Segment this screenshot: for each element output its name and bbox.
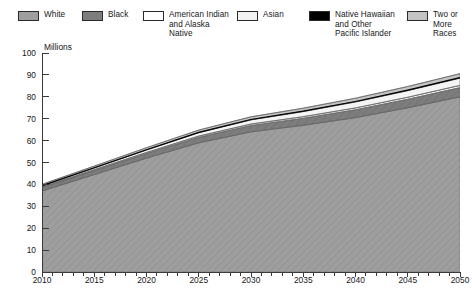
- legend-label-3: Asian: [263, 10, 284, 20]
- y-tick-label-70: 70: [10, 114, 36, 124]
- legend-item-1: Black: [82, 10, 128, 21]
- y-axis-title: Millions: [44, 42, 72, 52]
- x-tick-label-2035: 2035: [294, 275, 313, 285]
- legend-label-4: Native Hawaiian and Other Pacific Island…: [335, 10, 395, 39]
- legend-item-2: American Indian and Alaska Native: [143, 10, 229, 39]
- plot-svg: [42, 53, 460, 272]
- legend-label-0: White: [44, 10, 65, 20]
- legend-item-3: Asian: [237, 10, 284, 21]
- y-tick-label-10: 10: [10, 245, 36, 255]
- legend-label-5: Two or More Races: [433, 10, 458, 39]
- stacked-area-chart: WhiteBlackAmerican Indian and Alaska Nat…: [0, 0, 472, 292]
- x-tick-label-2050: 2050: [451, 275, 470, 285]
- y-tick-label-90: 90: [10, 70, 36, 80]
- legend-item-4: Native Hawaiian and Other Pacific Island…: [309, 10, 395, 39]
- legend-label-2: American Indian and Alaska Native: [169, 10, 229, 39]
- legend-swatch-native-hawaiian-pacific-islander: [309, 11, 330, 21]
- plot-area: [42, 53, 460, 272]
- y-tick-label-80: 80: [10, 92, 36, 102]
- legend-item-5: Two or More Races: [407, 10, 458, 39]
- x-tick-label-2015: 2015: [85, 275, 104, 285]
- stacked-bands: [42, 74, 460, 272]
- legend-swatch-two-or-more-races: [407, 11, 428, 21]
- legend-swatch-white: [18, 11, 39, 21]
- x-tick-label-2045: 2045: [398, 275, 417, 285]
- y-tick-label-0: 0: [10, 267, 36, 277]
- y-tick-label-40: 40: [10, 180, 36, 190]
- legend-swatch-black: [82, 11, 103, 21]
- x-tick-label-2025: 2025: [189, 275, 208, 285]
- chart-legend: WhiteBlackAmerican Indian and Alaska Nat…: [0, 0, 472, 46]
- x-tick-label-2030: 2030: [242, 275, 261, 285]
- legend-swatch-asian: [237, 11, 258, 21]
- x-tick-label-2020: 2020: [137, 275, 156, 285]
- x-tick-label-2040: 2040: [346, 275, 365, 285]
- y-axis-tick-labels: 0102030405060708090100: [8, 53, 36, 272]
- legend-label-1: Black: [108, 10, 128, 20]
- legend-item-0: White: [18, 10, 65, 21]
- legend-swatch-american-indian-alaska-native: [143, 11, 164, 21]
- x-axis-ticks: [42, 272, 460, 277]
- y-tick-label-20: 20: [10, 223, 36, 233]
- y-tick-label-100: 100: [10, 48, 36, 58]
- y-tick-label-30: 30: [10, 202, 36, 212]
- y-tick-label-60: 60: [10, 136, 36, 146]
- y-tick-label-50: 50: [10, 158, 36, 168]
